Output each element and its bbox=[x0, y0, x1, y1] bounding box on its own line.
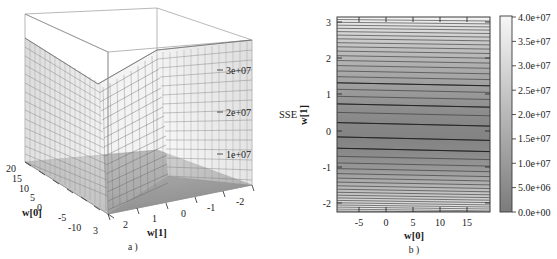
colorbar-tick-label: 5.0e+06 bbox=[518, 182, 551, 193]
heatmap-x-tick-label: 10 bbox=[435, 217, 445, 228]
panel-b-caption: b ) bbox=[409, 245, 419, 256]
y-tick-label: 0 bbox=[181, 208, 186, 219]
panel-a-surface3d: 3e+07 2e+07 1e+07 20 15 10 5 bbox=[0, 0, 280, 259]
y-tick-label: -2 bbox=[236, 196, 244, 207]
heatmap-y-tick-label: 0 bbox=[326, 126, 331, 137]
heatmap-y-tick-label: 1 bbox=[326, 89, 331, 100]
figure-container: 3e+07 2e+07 1e+07 20 15 10 5 bbox=[0, 0, 557, 259]
heatmap-y-tick-label: 2 bbox=[326, 53, 331, 64]
heatmap-x-tick-label: -5 bbox=[355, 217, 363, 228]
x-tick-label: 10 bbox=[19, 183, 29, 194]
colorbar-tick-label: 1.5e+07 bbox=[518, 133, 551, 144]
colorbar-tick-label: 0.0e+00 bbox=[518, 207, 551, 218]
colorbar-group: 4.0e+07 3.5e+07 3.0e+07 2.5e+07 2.0e+07 … bbox=[500, 12, 551, 218]
colorbar-tick-label: 3.0e+07 bbox=[518, 60, 551, 71]
colorbar-tick-label: 2.0e+07 bbox=[518, 109, 551, 120]
z-tick-label: 1e+07 bbox=[226, 149, 251, 160]
panel-b-heatmap: 3 2 1 0 -1 -2 w[1] SSE bbox=[277, 0, 557, 259]
z-tick-label: 2e+07 bbox=[226, 107, 251, 118]
x-tick-label: -10 bbox=[68, 222, 81, 233]
colorbar-tick-label: 3.5e+07 bbox=[518, 36, 551, 47]
heatmap-x-tick-label: 15 bbox=[462, 217, 472, 228]
heatmap-x-tick-label: 0 bbox=[384, 217, 389, 228]
panel-a-caption: a ) bbox=[128, 242, 138, 253]
y-axis-label-w1: w[1] bbox=[147, 227, 167, 238]
colorbar-gradient bbox=[500, 16, 512, 212]
x-tick-label: -5 bbox=[58, 212, 66, 223]
x-axis-label-w0: w[0] bbox=[22, 207, 42, 218]
heatmap-y-axis-label-w1: w[1] bbox=[298, 105, 309, 125]
sse-label: SSE bbox=[279, 109, 297, 120]
y-tick-label: 1 bbox=[152, 213, 157, 224]
heatmap-y-tick-label: -2 bbox=[323, 198, 331, 209]
colorbar-tick-label: 2.5e+07 bbox=[518, 85, 551, 96]
surface3d-svg: 3e+07 2e+07 1e+07 20 15 10 5 bbox=[0, 0, 280, 259]
colorbar-tick-label: 4.0e+07 bbox=[518, 12, 551, 23]
x-tick-label: 5 bbox=[30, 192, 35, 203]
heatmap-x-axis-label-w0: w[0] bbox=[404, 230, 424, 241]
heatmap-svg: 3 2 1 0 -1 -2 w[1] SSE bbox=[277, 0, 557, 259]
heatmap-x-tick-label: 5 bbox=[411, 217, 416, 228]
y-tick-label: 2 bbox=[123, 219, 128, 230]
heatmap-y-tick-label: -1 bbox=[323, 162, 331, 173]
heatmap-y-tick-label: 3 bbox=[326, 17, 331, 28]
y-tick-label: -1 bbox=[207, 202, 215, 213]
y-tick-label: 3 bbox=[93, 225, 98, 236]
z-tick-label: 3e+07 bbox=[226, 65, 251, 76]
colorbar-tick-label: 1.0e+07 bbox=[518, 158, 551, 169]
